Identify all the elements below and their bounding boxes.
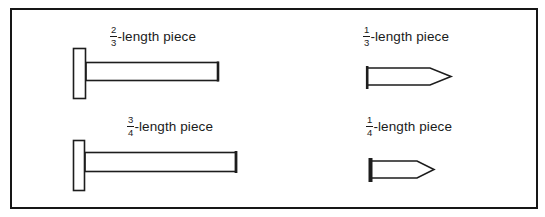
piece-label-three-fourths: 3 4 -length piece — [127, 115, 213, 137]
piece-label-one-third: 1 3 -length piece — [363, 25, 449, 47]
label-suffix: -length piece — [370, 29, 449, 44]
piece-label-two-thirds: 2 3 -length piece — [110, 25, 196, 47]
three-fourths-nail-head-piece-shape — [72, 138, 240, 192]
fraction-three-fourths: 3 4 — [127, 115, 134, 137]
label-suffix: -length piece — [117, 29, 196, 44]
fraction-numerator: 3 — [127, 115, 134, 125]
fraction-denominator: 4 — [366, 128, 373, 138]
piece-label-one-fourth: 1 4 -length piece — [366, 115, 452, 137]
one-fourth-nail-tip-piece-shape — [366, 156, 436, 184]
fraction-denominator: 4 — [127, 128, 134, 138]
fraction-numerator: 1 — [363, 25, 370, 35]
two-thirds-nail-head-piece-shape — [72, 47, 222, 100]
fraction-two-thirds: 2 3 — [110, 25, 117, 47]
fraction-one-third: 1 3 — [363, 25, 370, 47]
label-suffix: -length piece — [134, 119, 213, 134]
fraction-one-fourth: 1 4 — [366, 115, 373, 137]
fraction-numerator: 2 — [110, 25, 117, 35]
label-suffix: -length piece — [373, 119, 452, 134]
fraction-denominator: 3 — [110, 38, 117, 48]
fraction-numerator: 1 — [366, 115, 373, 125]
nail-pieces-figure: 2 3 -length piece 1 3 -length piece 3 4 … — [0, 0, 545, 217]
one-third-nail-tip-piece-shape — [364, 64, 454, 91]
fraction-denominator: 3 — [363, 38, 370, 48]
